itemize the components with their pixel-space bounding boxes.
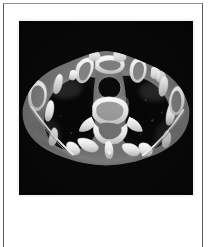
ct-image-viewport[interactable] [19,21,193,195]
ct-axial-chest-image [19,21,193,195]
trachea [98,77,121,99]
document-page [3,3,203,247]
ct-figure-frame [17,19,195,197]
